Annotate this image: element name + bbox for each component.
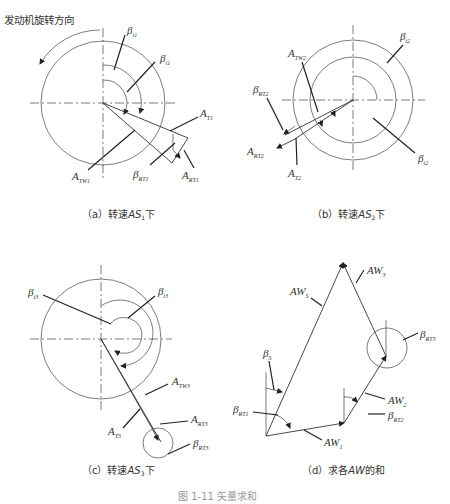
panel-a: βt1 βt1 AT1 ATW1 βRT1 ART1 （a）转速AS1下 <box>30 24 213 221</box>
beta-t1-inner-arc <box>103 80 127 114</box>
leader-AW2 <box>365 393 385 399</box>
leader-beta-S <box>269 361 274 390</box>
panel-d: AWS AW3 βRT3 βS βRT1 AW2 βRT2 AW1 （d）求各A… <box>232 263 436 476</box>
caption-d: （d）求各AW的和 <box>302 464 385 476</box>
figure-caption: 图 1-11 矢量求和 <box>178 490 257 502</box>
label-beta-RT1: βRT1 <box>132 168 149 182</box>
label-AW1: AW1 <box>323 436 342 450</box>
leader-A-RT3 <box>160 421 188 424</box>
label-AW2: AW2 <box>387 394 406 408</box>
panel-c: βt3 βt3 ATW3 AT3 ART3 βRT3 （c）转速AS3下 <box>27 265 209 477</box>
leader-A-T3 <box>123 409 140 428</box>
beta-t3-inner-arc <box>111 317 142 353</box>
vector-diagram-canvas: 发动机旋转方向 βt1 βt1 AT1 ATW1 βRT1 ART1 （a）转速… <box>0 0 450 504</box>
label-beta-RT2: βRT2 <box>252 83 269 97</box>
beta-RT1-arc <box>273 414 290 428</box>
label-beta-t2-top: βt2 <box>399 30 410 44</box>
label-beta-S: βS <box>262 347 271 361</box>
leader-AW1 <box>304 430 322 440</box>
vector-AW2 <box>344 356 386 423</box>
leader-beta-RT1 <box>150 143 175 165</box>
vector-A-RT1 <box>172 138 188 163</box>
label-beta-RT1: βRT1 <box>232 403 249 417</box>
label-A-T2: AT2 <box>287 167 301 181</box>
inner-arc <box>353 76 377 100</box>
label-A-RT3: ART3 <box>190 413 208 427</box>
beta-RT3-circle <box>367 328 407 368</box>
label-A-RT2: ART2 <box>246 145 264 159</box>
vector-AW1 <box>266 423 344 436</box>
beta-t3-outer-arc <box>101 300 153 366</box>
leader-beta-RT3 <box>403 333 418 340</box>
label-beta-t1-inner: βt1 <box>159 52 170 66</box>
rotation-direction-arrow <box>40 30 100 64</box>
label-beta-RT3: βRT3 <box>419 328 436 342</box>
leader-AW3 <box>356 270 364 283</box>
leader-beta-RT1 <box>253 412 278 415</box>
leader-AWS <box>311 298 322 306</box>
panel-b: βt2 βt2 ATW2 βRT2 ART2 AT2 （b）转速AS2下 <box>246 25 428 221</box>
leader-A-T2 <box>296 138 297 165</box>
label-A-TW1: ATW1 <box>71 170 90 184</box>
leader-A-T1 <box>170 117 198 131</box>
leader-A-RT1 <box>184 150 194 168</box>
leader-beta-t2-bottom <box>373 118 415 153</box>
label-A-T3: AT3 <box>107 425 121 439</box>
leader-beta-RT3 <box>168 444 190 454</box>
leader-beta-RT2 <box>267 98 283 130</box>
label-A-TW2: ATW2 <box>287 47 306 61</box>
vector-A-RT2 <box>277 139 295 148</box>
label-AWS: AWS <box>289 285 308 299</box>
label-beta-t2-bottom: βt2 <box>417 152 428 166</box>
label-A-TW3: ATW3 <box>171 375 190 389</box>
vector-A-T1 <box>103 103 188 138</box>
label-beta-t1-outer: βt1 <box>126 24 137 38</box>
label-AW3: AW3 <box>366 264 385 278</box>
vector-A-TW2 <box>285 100 353 135</box>
label-A-T1: AT1 <box>199 107 213 121</box>
vector-A-T3 <box>101 339 153 430</box>
vector-A-T2 <box>295 100 353 139</box>
leader-A-TW3 <box>145 384 168 395</box>
rotation-direction-label: 发动机旋转方向 <box>4 14 74 26</box>
caption-c: （c）转速AS3下 <box>82 464 155 477</box>
leader-beta-t2-top <box>387 45 403 63</box>
label-beta-t3-right: βt3 <box>157 285 168 299</box>
caption-b: （b）转速AS2下 <box>312 208 385 221</box>
caption-a: （a）转速AS1下 <box>82 208 155 221</box>
leader-beta-t1-outer <box>114 35 125 70</box>
label-A-RT1: ART1 <box>181 169 199 183</box>
label-beta-t3-left: βt3 <box>27 286 38 300</box>
beta-RT2-arc <box>344 397 357 402</box>
leader-beta-t3-right <box>128 296 155 318</box>
vector-AW3 <box>343 263 386 356</box>
label-beta-RT2: βRT2 <box>387 409 404 423</box>
label-beta-RT3: βRT3 <box>192 437 209 451</box>
leader-A-TW1 <box>88 130 135 170</box>
